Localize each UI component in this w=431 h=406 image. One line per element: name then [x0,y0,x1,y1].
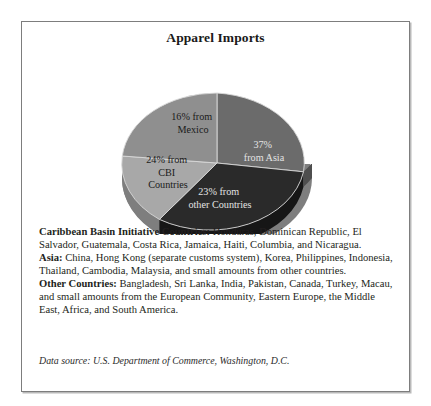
note-asia-term: Asia: [39,252,63,263]
pie-label-other-line2: other Countries [188,199,251,210]
note-other-term: Other Countries: [39,278,117,289]
notes-block: Caribbean Basin Initiative Countries: Ho… [39,225,395,316]
figure-frame: Apparel Imports [21,21,410,392]
chart-title: Apparel Imports [22,30,409,46]
note-cbi-term: Caribbean Basin Initiative Countries: [39,226,210,237]
pie-label-mexico-line1: 16% from [171,111,212,122]
pie-label-mexico-line2: Mexico [177,124,208,135]
pie-chart: 37% from Asia 23% from other Countries 2… [22,54,411,234]
note-asia: Asia: China, Hong Kong (separate customs… [39,251,395,277]
pie-label-cbi-line3: Countries [148,179,188,190]
pie-label-asia-line1: 37% [253,139,272,150]
pie-label-cbi-line2: CBI [158,167,176,178]
pie-label-mexico: 16% from Mexico [171,111,215,135]
note-other: Other Countries: Bangladesh, Sri Lanka, … [39,277,395,316]
pie-label-cbi-line1: 24% from [146,154,187,165]
pie-label-other-line1: 23% from [198,186,239,197]
note-cbi: Caribbean Basin Initiative Countries: Ho… [39,225,395,251]
note-asia-text: China, Hong Kong (separate customs syste… [39,252,393,276]
pie-label-asia-line2: from Asia [243,152,284,163]
pie-chart-svg: 37% from Asia 23% from other Countries 2… [112,54,322,234]
data-source-caption: Data source: U.S. Department of Commerce… [39,355,395,366]
